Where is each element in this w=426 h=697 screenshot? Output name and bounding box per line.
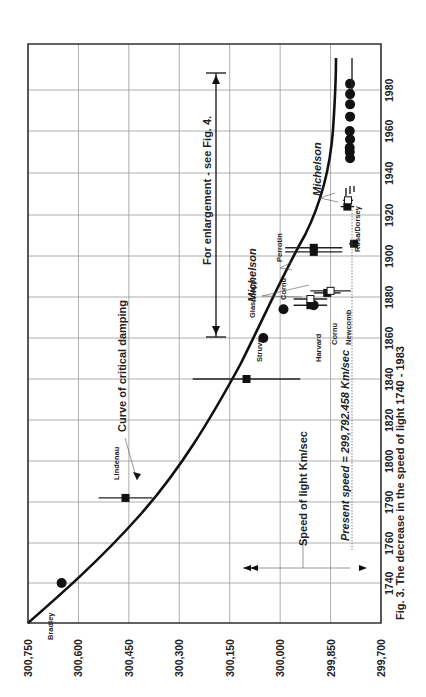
data-point-circle <box>57 578 67 588</box>
speed-tick-label: 300,750 <box>22 639 34 677</box>
speed-of-light-chart: 300,750300,600300,450300,300300,150300,0… <box>0 0 426 697</box>
speed-tick-label: 299,700 <box>375 639 387 677</box>
point-label: Harvard <box>314 333 323 362</box>
speed-tick-label: 299,850 <box>325 639 337 677</box>
point-label: Bradley <box>46 612 55 640</box>
data-point-square <box>310 244 318 252</box>
data-point-circle <box>345 89 355 99</box>
data-point-square <box>121 494 129 502</box>
point-label: Glasenapp <box>248 279 257 318</box>
data-point-circle <box>345 79 355 89</box>
speed-tick-label: 300,300 <box>173 639 185 677</box>
enlargement-note: For enlargement - see Fig. 4. <box>201 116 213 265</box>
point-label: Cornu <box>330 323 339 345</box>
data-point-open-square <box>307 296 314 303</box>
point-labels: BradleyLindenauStruveGlasenappCornuHarva… <box>46 205 362 640</box>
michelson-label-2: Michelson <box>311 142 323 196</box>
speed-tick-label: 300,600 <box>72 639 84 677</box>
data-point-circle <box>345 112 355 122</box>
year-tick-label: 1980 <box>383 78 395 102</box>
annotations: Curve of critical damping For enlargemen… <box>116 73 367 571</box>
point-label: Lindenau <box>112 446 121 480</box>
data-point-open-square <box>327 287 334 294</box>
point-label: Cornu <box>279 278 288 300</box>
present-speed-note: Present speed = 299,792.458 Km/sec <box>339 350 351 541</box>
data-point-circle <box>345 99 355 109</box>
speed-tick-label: 300,150 <box>224 639 236 677</box>
data-point-circle <box>279 304 289 314</box>
point-label: Struve <box>255 339 264 362</box>
year-tick-label: 1960 <box>383 119 395 143</box>
figure-caption: Fig. 3. The decrease in the speed of lig… <box>394 346 406 620</box>
year-tick-label: 1900 <box>383 244 395 268</box>
data-point-circle <box>345 126 355 136</box>
year-tick-label: 1880 <box>383 285 395 309</box>
speed-tick-label: 300,000 <box>274 639 286 677</box>
point-label: Perrotin <box>275 233 284 262</box>
critical-damping-curve <box>28 58 336 623</box>
year-tick-label: 1920 <box>383 203 395 227</box>
speed-tick-label: 300,450 <box>123 639 135 677</box>
year-tick-label: 1940 <box>383 161 395 185</box>
y-axis-label: Speed of light Km/sec <box>297 431 309 546</box>
point-label: Newcomb <box>344 309 353 345</box>
data-point-open-square <box>345 197 352 204</box>
curve-label: Curve of critical damping <box>116 300 128 432</box>
point-label: Rosa/Dorsey <box>353 205 362 252</box>
data-point-square <box>243 375 251 383</box>
